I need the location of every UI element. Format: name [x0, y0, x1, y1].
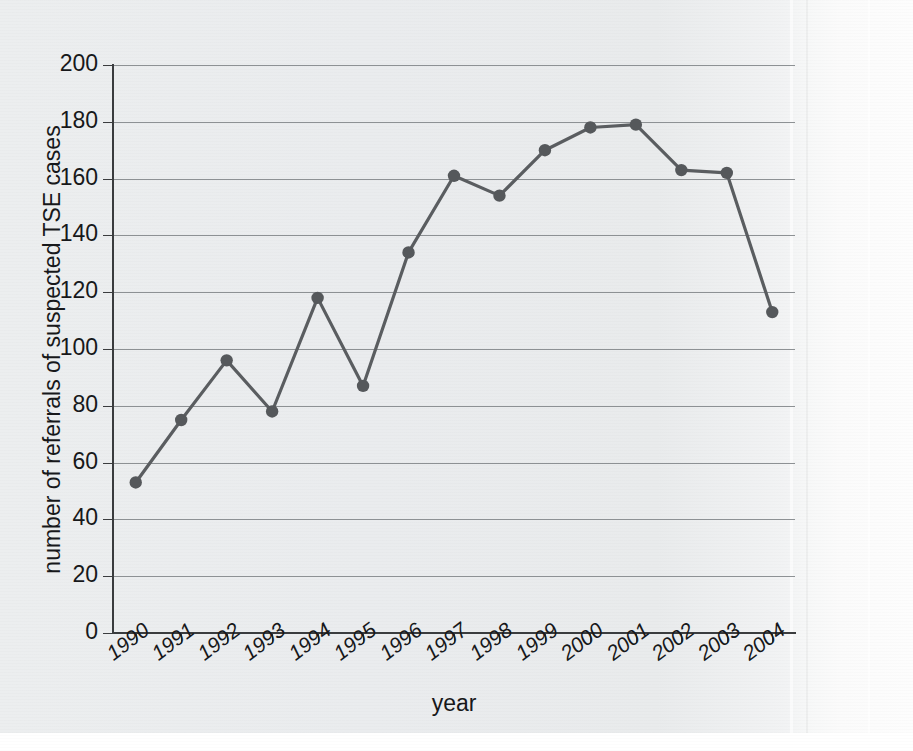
data-point: [402, 246, 414, 258]
y-tick: [103, 519, 113, 520]
data-series-layer: [113, 65, 795, 633]
data-point: [220, 354, 232, 366]
scanned-page: 020406080100120140160180200 199019911992…: [0, 0, 913, 751]
data-point: [311, 292, 323, 304]
y-tick: [103, 576, 113, 577]
series-markers: [130, 118, 779, 488]
y-tick: [103, 179, 113, 180]
data-point: [630, 118, 642, 130]
y-tick: [103, 406, 113, 407]
data-point: [266, 405, 278, 417]
data-point: [539, 144, 551, 156]
data-point: [357, 380, 369, 392]
y-tick: [103, 463, 113, 464]
data-point: [721, 167, 733, 179]
y-tick: [103, 633, 113, 634]
y-axis-title: number of referrals of suspected TSE cas…: [39, 70, 66, 630]
line-chart: 020406080100120140160180200 199019911992…: [0, 0, 913, 733]
data-point: [675, 164, 687, 176]
y-tick: [103, 292, 113, 293]
y-tick: [103, 65, 113, 66]
x-axis-title: year: [113, 690, 795, 717]
data-point: [448, 170, 460, 182]
data-point: [766, 306, 778, 318]
y-tick: [103, 235, 113, 236]
data-point: [584, 121, 596, 133]
y-tick: [103, 122, 113, 123]
data-point: [493, 189, 505, 201]
data-point: [175, 414, 187, 426]
data-point: [130, 476, 142, 488]
y-tick: [103, 349, 113, 350]
